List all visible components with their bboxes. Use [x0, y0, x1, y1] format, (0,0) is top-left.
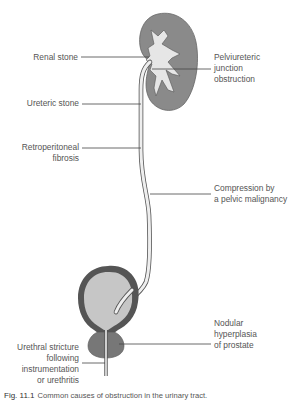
label-pelviureteric-junction-obstruction: Pelviureteric junction obstruction: [214, 52, 260, 85]
label-retroperitoneal-fibrosis: Retroperitoneal fibrosis: [22, 142, 79, 164]
label-urethral-stricture: Urethral stricture following instrumenta…: [17, 342, 79, 386]
label-nodular-hyperplasia-prostate: Nodular hyperplasia of prostate: [214, 318, 257, 351]
figure-number: Fig. 11.1: [4, 391, 35, 400]
label-ureteric-stone: Ureteric stone: [27, 98, 79, 109]
figure-caption: Fig. 11.1Common causes of obstruction in…: [4, 391, 207, 400]
label-renal-stone: Renal stone: [33, 52, 78, 63]
bladder: [78, 266, 139, 336]
label-compression-pelvic-malignancy: Compression by a pelvic malignancy: [214, 183, 287, 205]
figure-caption-text: Common causes of obstruction in the urin…: [38, 391, 208, 400]
